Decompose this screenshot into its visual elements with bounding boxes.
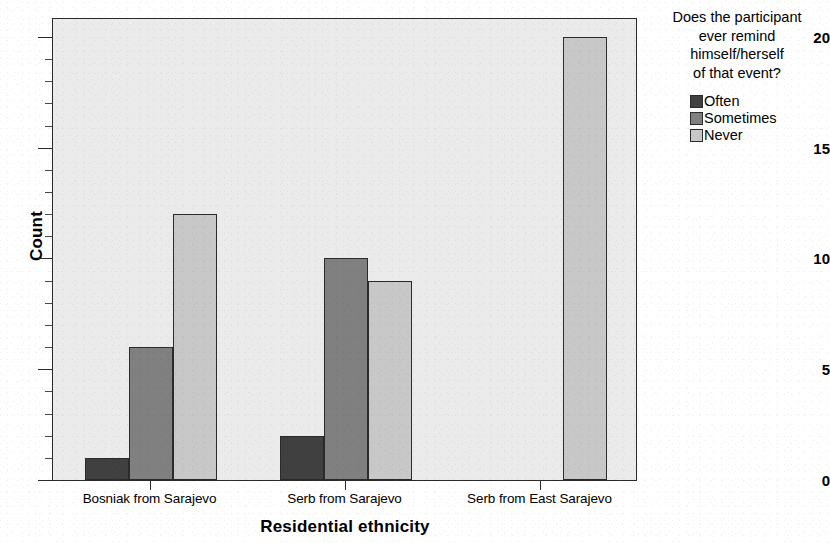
y-axis-tick-label: 0	[796, 473, 830, 488]
y-axis-minor-tick	[45, 81, 52, 82]
y-axis-minor-tick	[45, 325, 52, 326]
legend-title-line: Does the participant	[646, 8, 828, 27]
y-axis-title: Count	[27, 166, 47, 306]
y-axis-minor-tick	[45, 192, 52, 193]
y-axis-tick-label: 5	[796, 362, 830, 377]
y-axis-tick	[38, 148, 52, 149]
legend-swatch-icon	[690, 129, 703, 142]
legend-item-never: Never	[690, 127, 828, 143]
y-axis-minor-tick	[45, 170, 52, 171]
bar	[173, 214, 217, 480]
x-axis-tick	[345, 481, 346, 490]
y-axis-minor-tick	[45, 391, 52, 392]
y-axis-minor-tick	[45, 103, 52, 104]
bars-layer	[53, 19, 636, 480]
y-axis-minor-tick	[45, 59, 52, 60]
legend-item-label: Never	[704, 128, 743, 143]
legend-item-sometimes: Sometimes	[690, 110, 828, 126]
y-axis-tick-label: 10	[796, 251, 830, 266]
x-axis-tick	[150, 481, 151, 490]
bar	[368, 281, 412, 480]
chart-figure: Count 20151050 Bosniak from SarajevoSerb…	[0, 0, 830, 543]
bar	[563, 37, 607, 480]
legend-item-often: Often	[690, 93, 828, 109]
x-axis-tick-label: Serb from East Sarajevo	[442, 491, 637, 506]
legend-item-label: Sometimes	[704, 111, 777, 126]
y-axis-tick	[38, 37, 52, 38]
y-axis-tick	[38, 258, 52, 259]
y-axis-minor-tick	[45, 458, 52, 459]
y-axis-minor-tick	[45, 214, 52, 215]
y-axis-minor-tick	[45, 347, 52, 348]
legend-title-line: ever remind	[646, 27, 828, 46]
y-axis-minor-tick	[45, 436, 52, 437]
legend-item-label: Often	[704, 94, 739, 109]
y-axis-minor-tick	[45, 126, 52, 127]
legend-title-line: of that event?	[646, 64, 828, 83]
x-axis-tick-label: Serb from Sarajevo	[247, 491, 442, 506]
bar	[280, 436, 324, 480]
bar	[324, 258, 368, 480]
y-axis-minor-tick	[45, 236, 52, 237]
plot-area	[52, 18, 637, 481]
x-axis-title: Residential ethnicity	[52, 517, 638, 537]
x-axis-tick-label: Bosniak from Sarajevo	[52, 491, 247, 506]
legend-swatch-icon	[690, 112, 703, 125]
chart-legend: Does the participantever remindhimself/h…	[646, 8, 828, 144]
legend-title: Does the participantever remindhimself/h…	[646, 8, 828, 82]
bar	[129, 347, 173, 480]
x-axis-tick	[540, 481, 541, 490]
y-axis-tick	[38, 369, 52, 370]
y-axis-tick	[38, 480, 52, 481]
y-axis-minor-tick	[45, 303, 52, 304]
legend-swatch-icon	[690, 95, 703, 108]
bar	[85, 458, 129, 480]
legend-items: OftenSometimesNever	[646, 93, 828, 143]
legend-title-line: himself/herself	[646, 45, 828, 64]
y-axis-minor-tick	[45, 281, 52, 282]
y-axis-minor-tick	[45, 414, 52, 415]
